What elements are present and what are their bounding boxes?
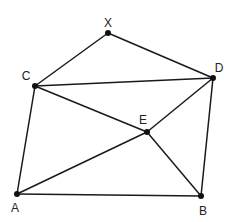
point-label-x: X: [104, 16, 112, 30]
point-label-d: D: [215, 61, 224, 75]
point-b: [198, 193, 204, 199]
segment-ce: [35, 86, 147, 132]
segment-xc: [35, 33, 108, 86]
point-e: [144, 129, 150, 135]
points-group: [14, 30, 216, 199]
segment-ca: [17, 86, 35, 194]
segment-de: [147, 78, 213, 132]
segment-eb: [147, 132, 201, 196]
labels-group: XCDEAB: [11, 16, 224, 218]
point-x: [105, 30, 111, 36]
segment-cd: [35, 78, 213, 86]
point-label-b: B: [199, 204, 207, 218]
point-label-a: A: [11, 201, 19, 215]
segment-xd: [108, 33, 213, 78]
point-label-e: E: [139, 113, 147, 127]
segment-ab: [17, 194, 201, 196]
point-c: [32, 83, 38, 89]
segment-db: [201, 78, 213, 196]
segment-ae: [17, 132, 147, 194]
point-d: [210, 75, 216, 81]
geometry-diagram: XCDEAB: [0, 0, 232, 222]
point-label-c: C: [22, 69, 31, 83]
point-a: [14, 191, 20, 197]
edges-group: [17, 33, 213, 196]
